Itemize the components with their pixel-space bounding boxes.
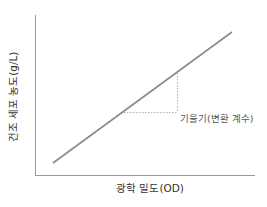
y-axis-label: 건조 세포 농도(g/L) (5, 52, 20, 143)
chart-canvas (0, 0, 267, 207)
slope-annotation: 기울기(변환 계수) (180, 111, 253, 125)
calibration-line (53, 32, 232, 163)
x-axis-label: 광학 밀도(OD) (0, 180, 267, 195)
